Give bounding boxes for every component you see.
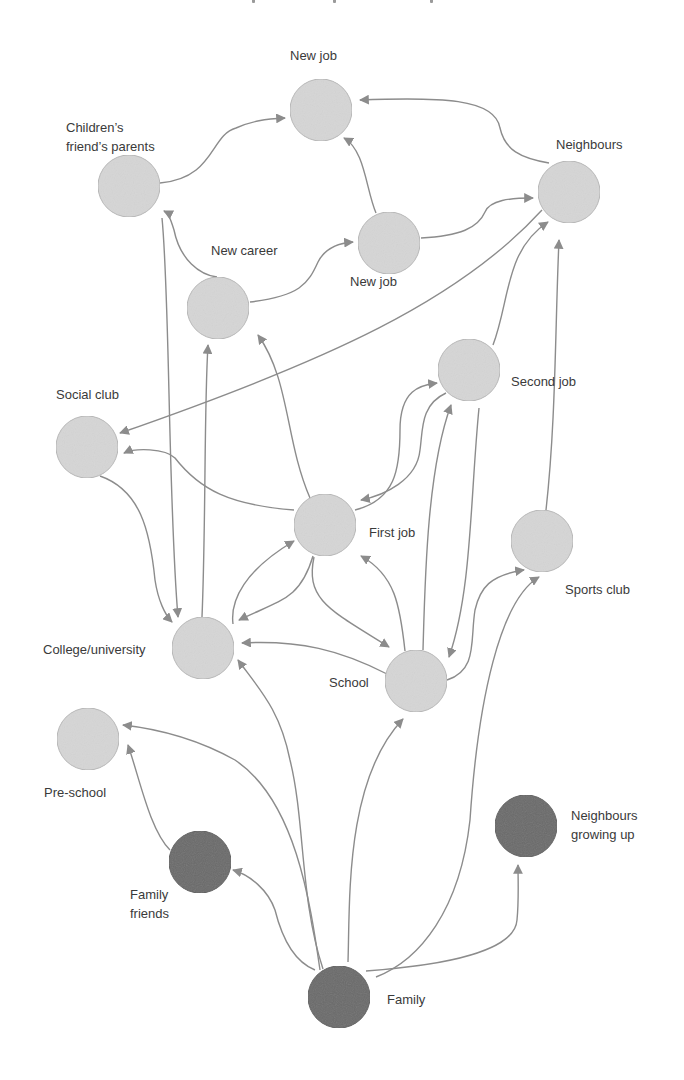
node-label-new-career: New career	[211, 241, 277, 260]
node-social-club	[56, 416, 118, 478]
node-college-university	[172, 617, 234, 679]
edge-new-job-mid-to-new-job-top	[344, 138, 376, 213]
node-neighbours-growing-up	[495, 795, 557, 857]
edge-first-job-to-new-career	[258, 335, 310, 498]
edge-family-to-school	[348, 719, 403, 962]
edge-family-to-sports-club	[376, 577, 539, 977]
node-label-new-job-mid: New job	[350, 272, 397, 291]
edge-family-friends-to-pre-school	[128, 745, 170, 850]
node-label-family-friends: Familyfriends	[130, 885, 169, 923]
social-network-diagram	[0, 0, 684, 1080]
edge-second-job-to-neighbours	[493, 222, 548, 345]
edge-social-club-to-college-university	[100, 476, 172, 622]
edge-new-job-mid-to-neighbours	[421, 198, 533, 238]
edge-first-job-to-school	[312, 557, 389, 647]
node-new-job-mid	[358, 212, 420, 274]
node-label-family: Family	[387, 990, 425, 1009]
edge-family-to-family-friends	[233, 870, 315, 970]
edge-first-job-to-second-job	[355, 383, 437, 510]
node-neighbours	[538, 161, 600, 223]
node-label-school: School	[329, 673, 369, 692]
edge-school-to-sports-club	[447, 570, 524, 680]
edge-school-to-college-university	[242, 642, 387, 674]
node-label-sports-club: Sports club	[565, 580, 630, 599]
edge-childrens-friends-parents-to-new-job-top	[160, 118, 285, 183]
node-first-job	[294, 494, 356, 556]
edge-family-to-neighbours-growing-up	[366, 865, 518, 971]
node-school	[385, 650, 447, 712]
edge-college-university-to-new-career	[202, 345, 208, 617]
edge-first-job-to-college-university	[239, 556, 313, 620]
node-label-new-job-top: New job	[290, 46, 337, 65]
node-second-job	[438, 339, 500, 401]
edge-school-to-second-job	[423, 405, 451, 650]
node-label-social-club: Social club	[56, 385, 119, 404]
node-label-neighbours-growing-up: Neighboursgrowing up	[571, 806, 638, 844]
edge-college-university-to-first-job	[233, 541, 294, 624]
node-label-first-job: First job	[369, 523, 415, 542]
node-pre-school	[57, 708, 119, 770]
node-sports-club	[511, 510, 573, 572]
node-family-friends	[169, 831, 231, 893]
node-new-career	[187, 277, 249, 339]
node-family	[308, 966, 370, 1028]
node-childrens-friends-parents	[98, 155, 160, 217]
node-label-college-university: College/university	[43, 640, 146, 659]
node-label-childrens-friends-parents: Children’sfriend’s parents	[66, 118, 155, 156]
edge-first-job-to-social-club	[124, 450, 294, 510]
node-label-second-job: Second job	[511, 372, 576, 391]
node-label-pre-school: Pre-school	[44, 783, 106, 802]
edge-school-to-first-job	[361, 556, 405, 651]
edge-neighbours-to-new-job-top	[360, 99, 549, 163]
node-new-job-top	[290, 79, 352, 141]
node-label-neighbours: Neighbours	[556, 135, 623, 154]
edge-new-career-to-childrens-friends-parents	[164, 211, 217, 277]
